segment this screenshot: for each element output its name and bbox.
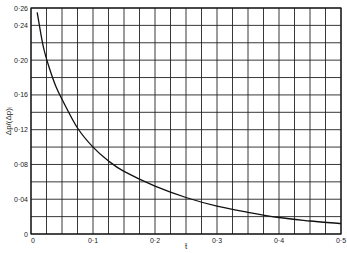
x-axis-ticks: 00·10·20·30·40·5 [31,237,346,244]
chart: 00·040·080·120·160·200·240·26 00·10·20·3… [0,0,347,253]
y-tick-label: 0·20 [14,57,28,64]
y-tick-label: 0·04 [14,196,28,203]
y-tick-label: 0·12 [14,126,28,133]
grid-lines [31,8,341,234]
y-axis-ticks: 00·040·080·120·160·200·240·26 [14,5,28,238]
y-tick-label: 0 [24,231,28,238]
y-tick-label: 0·08 [14,161,28,168]
data-curve [37,12,341,223]
x-tick-label: 0·1 [88,237,98,244]
y-tick-label: 0·16 [14,91,28,98]
y-axis-label: Δp/(Δp)ᵢ [4,107,13,135]
y-tick-label: 0·26 [14,5,28,12]
x-tick-label: 0·2 [150,237,160,244]
x-tick-label: 0·4 [274,237,284,244]
y-tick-label: 0·24 [14,22,28,29]
x-tick-label: 0 [31,237,35,244]
x-tick-label: 0·3 [212,237,222,244]
x-axis-label: t̄ [184,242,188,251]
x-tick-label: 0·5 [336,237,346,244]
